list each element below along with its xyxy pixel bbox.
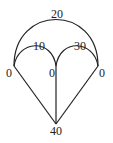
node-label-left: 0 [6,66,12,80]
graph-diagram: 20 10 30 0 0 0 40 [0,0,113,143]
node-label-center: 0 [49,66,55,80]
edge-label-left-arc: 10 [33,39,45,53]
node-label-bottom: 40 [50,124,62,138]
node-label-right: 0 [99,66,105,80]
edge-label-right-arc: 30 [74,39,86,53]
edge-label-top: 20 [51,7,63,21]
edge-right-bottom [56,66,98,124]
